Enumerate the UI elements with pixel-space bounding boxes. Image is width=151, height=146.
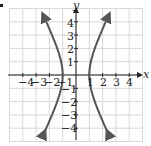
y-tick-label: −2 <box>61 96 77 109</box>
x-tick-label: 3 <box>113 76 120 89</box>
hyperbola-chart: −4 −3 −2 −1 1 2 3 4 4 3 2 1 −1 −2 −3 −4 … <box>0 0 151 146</box>
bullet-marker <box>0 4 3 7</box>
y-tick-label: −3 <box>61 109 77 122</box>
x-axis-label: x <box>143 68 150 81</box>
y-tick-label: −4 <box>61 122 77 135</box>
x-tick-label: 2 <box>100 76 107 89</box>
y-tick-label: 2 <box>67 43 74 56</box>
x-tick-label: 1 <box>87 76 94 89</box>
x-tick-label: 4 <box>126 76 133 89</box>
y-tick-label: 1 <box>67 56 74 69</box>
y-axis-label: y <box>72 0 80 12</box>
y-tick-label: 3 <box>67 30 74 43</box>
y-tick-label: −1 <box>61 83 77 96</box>
y-tick-label: 4 <box>67 17 74 30</box>
